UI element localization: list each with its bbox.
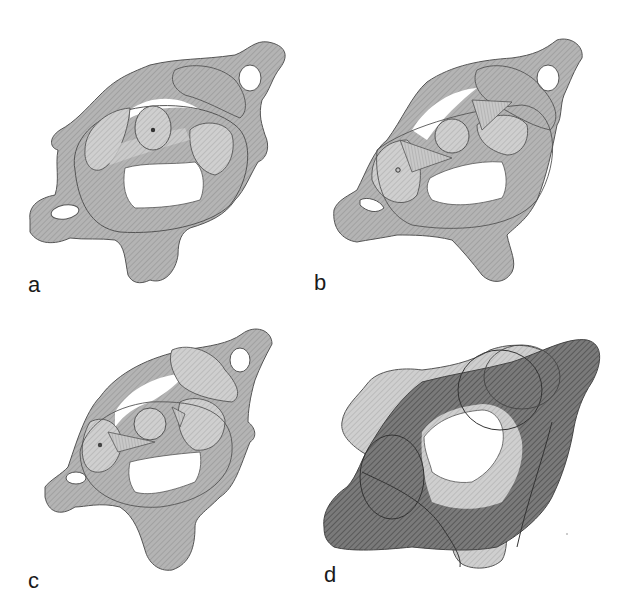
panel-label-a: a [28, 274, 40, 296]
foramen-left [66, 472, 86, 484]
foramen-right [537, 65, 559, 91]
dens [435, 119, 469, 153]
vertebra-schematic-d [312, 302, 624, 604]
foramen-right [239, 65, 261, 91]
panel-label-c: c [28, 570, 39, 592]
panel-label-d: d [324, 564, 336, 586]
pivot-dot [98, 443, 102, 447]
panel-c: c [0, 302, 312, 604]
panel-a: a [0, 0, 312, 302]
dens [134, 408, 166, 440]
foramen-right [230, 348, 250, 372]
vertebra-illustration-b [312, 0, 624, 302]
vertebra-illustration-a [0, 0, 312, 302]
vertebral-canal [124, 162, 203, 208]
speck [566, 533, 568, 535]
vertebra-illustration-c [0, 302, 312, 604]
panel-d: d [312, 302, 624, 604]
panel-label-b: b [314, 272, 326, 294]
panel-b: b [312, 0, 624, 302]
pivot-dot [151, 128, 155, 132]
